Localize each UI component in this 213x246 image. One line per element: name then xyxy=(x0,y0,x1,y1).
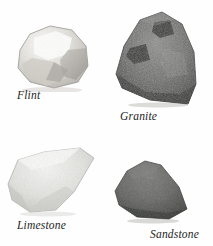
specimen-label-sandstone: Sandstone xyxy=(150,228,199,240)
specimen-label-flint: Flint xyxy=(17,89,40,101)
specimen-label-granite: Granite xyxy=(120,110,157,122)
rock-limestone-photo xyxy=(4,144,98,218)
rock-sandstone-photo xyxy=(111,157,191,225)
rock-specimen-figure: Flint xyxy=(0,0,213,246)
rock-flint-photo xyxy=(10,20,92,92)
specimen-label-limestone: Limestone xyxy=(17,219,66,231)
rock-granite-photo xyxy=(110,8,200,108)
